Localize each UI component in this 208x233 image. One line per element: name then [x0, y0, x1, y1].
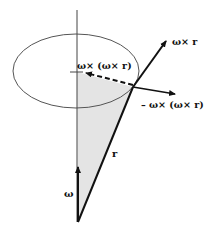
label-r: r: [112, 148, 118, 159]
neg-centripetal-vector: [133, 87, 175, 94]
rotation-circle: [13, 34, 139, 108]
label-neg-omega-cross-omega-cross-r: – ω× (ω× r): [141, 99, 204, 110]
label-omega-cross-r: ω× r: [172, 36, 198, 47]
label-omega-cross-omega-cross-r: ω× (ω× r): [77, 60, 132, 71]
label-omega: ω: [64, 188, 74, 199]
diagram-canvas: ω× r ω× (ω× r) – ω× (ω× r) r ω: [0, 0, 208, 233]
